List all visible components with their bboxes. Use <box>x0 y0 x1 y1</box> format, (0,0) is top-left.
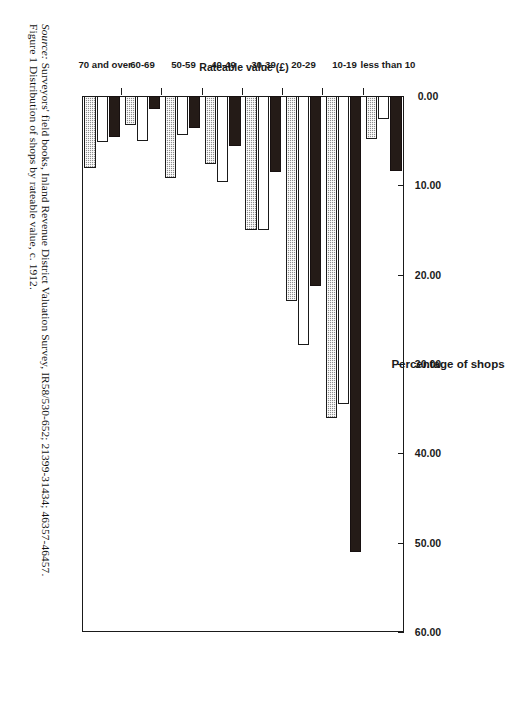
bar-accrington-40-49 <box>230 96 241 146</box>
percentage-axis-tick <box>398 185 404 186</box>
percentage-axis-tick-label: 0.00 <box>412 90 444 102</box>
bar-lancaster-30-39 <box>245 96 256 230</box>
bar-lancaster-20-29 <box>286 96 297 301</box>
category-axis-tick <box>162 88 163 95</box>
bar-barrow-50-59 <box>177 96 188 135</box>
bar-accrington-70-and-over <box>109 96 120 137</box>
bar-barrow-20-29 <box>298 96 309 345</box>
bar-accrington-20-29 <box>310 96 321 286</box>
bar-lancaster-50-59 <box>165 96 176 178</box>
percentage-axis-tick <box>398 632 404 633</box>
bar-accrington-10-19 <box>350 96 361 552</box>
percentage-axis-tick-label: 50.00 <box>412 537 444 549</box>
bar-lancaster-70-and-over <box>84 96 95 168</box>
percentage-axis-tick-label: 10.00 <box>412 179 444 191</box>
bar-lancaster-10-19 <box>326 96 337 418</box>
bar-accrington-less-than-10 <box>391 96 402 171</box>
bar-lancaster-less-than-10 <box>366 96 377 139</box>
percentage-axis-tick <box>398 453 404 454</box>
percentage-axis-tick <box>398 275 404 276</box>
percentage-axis-tick <box>398 543 404 544</box>
category-axis-label: 70 and over <box>79 59 127 70</box>
category-axis-tick <box>202 88 203 95</box>
bar-barrow-30-39 <box>258 96 269 230</box>
percentage-axis-title: Percentage of shops <box>388 358 508 370</box>
category-axis-tick <box>323 88 324 95</box>
bar-lancaster-40-49 <box>205 96 216 164</box>
category-axis-tick <box>242 88 243 95</box>
chart-canvas: 0.0010.0020.0030.0040.0050.0060.00 Perce… <box>90 36 430 696</box>
category-axis-tick <box>282 88 283 95</box>
bar-barrow-40-49 <box>217 96 228 182</box>
bar-barrow-60-69 <box>137 96 148 141</box>
percentage-axis-tick-label: 60.00 <box>412 626 444 638</box>
bar-accrington-60-69 <box>149 96 160 109</box>
bar-barrow-less-than-10 <box>378 96 389 119</box>
bar-lancaster-60-69 <box>125 96 136 125</box>
category-axis-title: Rateable value (£) <box>189 61 299 73</box>
category-axis-tick <box>121 88 122 95</box>
bar-barrow-70-and-over <box>97 96 108 142</box>
bar-accrington-30-39 <box>270 96 281 172</box>
category-axis-tick <box>363 88 364 95</box>
bar-barrow-10-19 <box>338 96 349 404</box>
bar-accrington-50-59 <box>189 96 200 128</box>
percentage-axis-tick-label: 40.00 <box>412 447 444 459</box>
percentage-axis-tick-label: 20.00 <box>412 269 444 281</box>
